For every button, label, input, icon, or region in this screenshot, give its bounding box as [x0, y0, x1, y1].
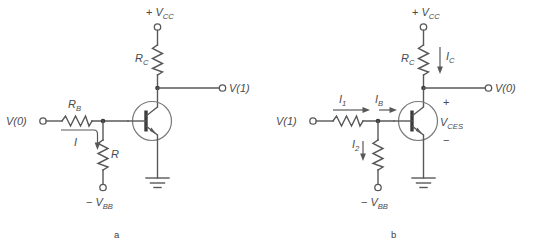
current-i1-label-b: I1 — [339, 93, 346, 108]
r-label-a: R — [111, 148, 119, 160]
caption-b: b — [391, 229, 396, 240]
vcc-label-a: +VCC — [146, 6, 174, 21]
vces-plus-sign-b: + — [443, 96, 449, 108]
current-ib-indicator-b — [379, 107, 397, 113]
vces-minus-sign-b: − — [443, 134, 449, 146]
current-i2-indicator-b — [360, 141, 366, 161]
input-terminal-a — [40, 118, 46, 124]
output-terminal-b — [485, 85, 491, 91]
input-label-a: V(0) — [6, 115, 27, 127]
output-terminal-a — [219, 85, 225, 91]
ground-symbol-a — [146, 178, 169, 188]
input-resistor-b — [333, 116, 363, 126]
current-i2-label-b: I2 — [352, 138, 360, 153]
pulldown-resistor-b — [373, 140, 383, 170]
vces-label-b: VCES — [440, 116, 463, 131]
circuit-a: +VCC RC V(1) — [6, 6, 250, 240]
current-i-label-a: I — [74, 136, 77, 148]
current-ic-indicator-b — [437, 47, 443, 74]
vcc-terminal-b — [420, 24, 426, 30]
vcc-terminal-a — [154, 24, 160, 30]
rc-label-a: RC — [135, 52, 149, 67]
transistor-collector-lead-a — [146, 107, 158, 116]
rc-resistor-a — [153, 45, 163, 75]
current-i-indicator-a — [61, 130, 100, 150]
vbb-terminal-a — [100, 184, 106, 190]
output-label-b: V(0) — [495, 82, 516, 94]
transistor-emitter-arrow-b — [416, 127, 423, 134]
vcc-label-b: +VCC — [412, 6, 440, 21]
input-label-b: V(1) — [276, 115, 297, 127]
vbb-terminal-b — [375, 184, 381, 190]
rc-label-b: RC — [401, 52, 415, 67]
circuit-b: +VCC RC IC V(0) — [276, 6, 516, 240]
rc-resistor-b — [419, 45, 429, 75]
rb-resistor-a — [62, 116, 92, 126]
current-i1-indicator-b — [333, 107, 370, 113]
r-resistor-a — [98, 140, 108, 170]
ground-symbol-b — [412, 178, 435, 188]
current-ib-label-b: IB — [375, 93, 383, 108]
caption-a: a — [114, 229, 120, 240]
vbb-label-a: −VBB — [86, 196, 113, 211]
current-ic-label-b: IC — [446, 50, 455, 65]
vbb-label-b: −VBB — [361, 196, 388, 211]
transistor-emitter-arrow-a — [150, 127, 157, 134]
input-terminal-b — [310, 118, 316, 124]
transistor-collector-lead-b — [412, 107, 424, 116]
output-label-a: V(1) — [229, 82, 250, 94]
rb-label-a: RB — [68, 98, 81, 113]
circuit-figure: +VCC RC V(1) — [0, 0, 537, 251]
